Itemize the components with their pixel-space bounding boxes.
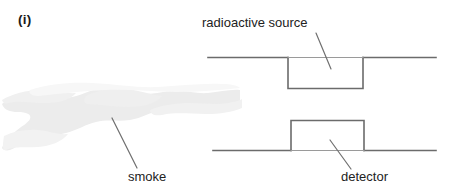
detector-housing-shape bbox=[291, 121, 364, 151]
part-label: (i) bbox=[18, 13, 31, 27]
detector-label: detector bbox=[341, 170, 388, 183]
source-leader-line bbox=[316, 33, 331, 69]
smoke-label: smoke bbox=[128, 170, 166, 183]
radioactive-source-assembly bbox=[208, 58, 436, 89]
figure-container: (i) radioactive source smoke detector bbox=[0, 0, 450, 196]
smoke-cloud-icon bbox=[2, 83, 242, 151]
source-housing-shape bbox=[288, 58, 363, 89]
radioactive-source-label: radioactive source bbox=[202, 16, 308, 29]
detector-leader-line bbox=[330, 140, 351, 169]
smoke-leader-line bbox=[112, 118, 137, 168]
detector-assembly bbox=[213, 121, 436, 151]
